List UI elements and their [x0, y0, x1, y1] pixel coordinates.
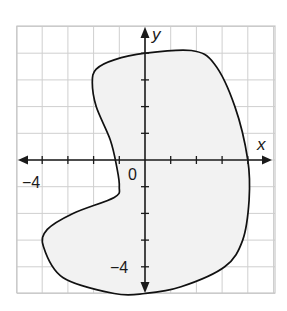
x-tick-label-neg4: −4: [22, 174, 40, 191]
y-tick-label-neg4: −4: [110, 259, 128, 276]
y-axis-arrow-up-icon: [141, 27, 150, 38]
y-axis-label: y: [151, 25, 162, 44]
x-axis-arrow-right-icon: [262, 156, 272, 165]
origin-label: 0: [128, 166, 137, 183]
x-axis-arrow-left-icon: [18, 156, 28, 165]
shaded-region: [42, 50, 249, 295]
coordinate-plane: x y 0 −4 −4: [0, 0, 287, 311]
x-axis-label: x: [256, 135, 266, 154]
